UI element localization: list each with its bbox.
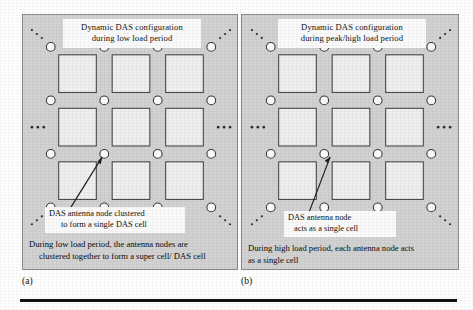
panel-a-caption: During low load period, the antenna node… [29, 239, 233, 262]
antenna-node [427, 96, 436, 105]
antenna-node [266, 150, 275, 159]
panel-a-callout: DAS antenna node clustered to form a sin… [45, 207, 185, 233]
das-cell [112, 108, 150, 146]
antenna-node [320, 150, 329, 159]
panel-a-callout-line1: DAS antenna node clustered [49, 209, 145, 218]
antenna-node [373, 150, 382, 159]
das-cell [59, 55, 97, 93]
das-cell [332, 162, 370, 200]
antenna-node [46, 96, 55, 105]
das-cell [279, 162, 317, 200]
das-cell [166, 162, 204, 200]
panel-a-title-line1: Dynamic DAS configuration [81, 22, 183, 32]
das-cell [279, 55, 317, 93]
das-cell [279, 108, 317, 146]
panel-a-caption-line2: clustered together to form a super cell/… [29, 251, 233, 263]
continuation-dots-a [31, 29, 232, 225]
panel-b-callout: DAS antenna node acts as a single cell [284, 211, 396, 237]
antenna-node [207, 203, 216, 212]
continuation-dots-b [251, 29, 452, 225]
das-cell [386, 162, 424, 200]
das-cell [386, 108, 424, 146]
callout-leader-line [70, 157, 103, 210]
panel-b-caption-line2: as a single cell [248, 255, 448, 267]
antenna-node [427, 150, 436, 159]
callout-arrow-head [325, 157, 330, 163]
das-cell [332, 55, 370, 93]
panel-b-callout-line2: acts as a single cell [288, 224, 392, 235]
antenna-node [266, 203, 275, 212]
panel-a-caption-line1: During low load period, the antenna node… [29, 239, 233, 251]
das-cell [59, 108, 97, 146]
antenna-node [427, 43, 436, 52]
panel-a-low-load: Dynamic DAS configuration during low loa… [22, 14, 238, 270]
antenna-node [207, 96, 216, 105]
antenna-node [153, 96, 162, 105]
subfigure-label-b: (b) [241, 276, 252, 286]
panel-b-caption-line1: During high load period, each antenna no… [248, 243, 448, 255]
antenna-node [373, 96, 382, 105]
panel-b-title-line2: during peak/high load period [301, 33, 403, 43]
panel-a-title-line2: during low load period [92, 33, 173, 43]
antenna-node [46, 43, 55, 52]
das-cell [166, 108, 204, 146]
panel-b-title-line1: Dynamic DAS configuration [301, 22, 403, 32]
antenna-node [207, 43, 216, 52]
panel-a-callout-line2: to form a single DAS cell [49, 220, 181, 231]
antenna-node [427, 203, 436, 212]
subfigure-label-a: (a) [22, 276, 33, 286]
das-cell [112, 55, 150, 93]
antenna-node [100, 96, 109, 105]
antenna-node [153, 150, 162, 159]
panel-b-caption: During high load period, each antenna no… [248, 243, 448, 266]
panel-b-callout-line1: DAS antenna node [288, 213, 351, 222]
das-cell [386, 55, 424, 93]
panel-a-title: Dynamic DAS configuration during low loa… [63, 19, 201, 48]
das-cell [332, 108, 370, 146]
figure-dynamic-das-configuration: Dynamic DAS configuration during low loa… [0, 0, 473, 310]
antenna-node [266, 43, 275, 52]
callout-arrow-head [97, 157, 102, 164]
antenna-node [320, 96, 329, 105]
callout-leader-line [309, 157, 330, 211]
das-cell [59, 162, 97, 200]
das-cell [112, 162, 150, 200]
das-cell [166, 55, 204, 93]
panel-b-high-load: Dynamic DAS configuration during peak/hi… [241, 14, 459, 270]
panel-b-title: Dynamic DAS configuration during peak/hi… [278, 19, 426, 48]
antenna-node [100, 150, 109, 159]
antenna-node [266, 96, 275, 105]
antenna-node [207, 150, 216, 159]
bottom-rule [20, 299, 457, 302]
antenna-node [46, 150, 55, 159]
